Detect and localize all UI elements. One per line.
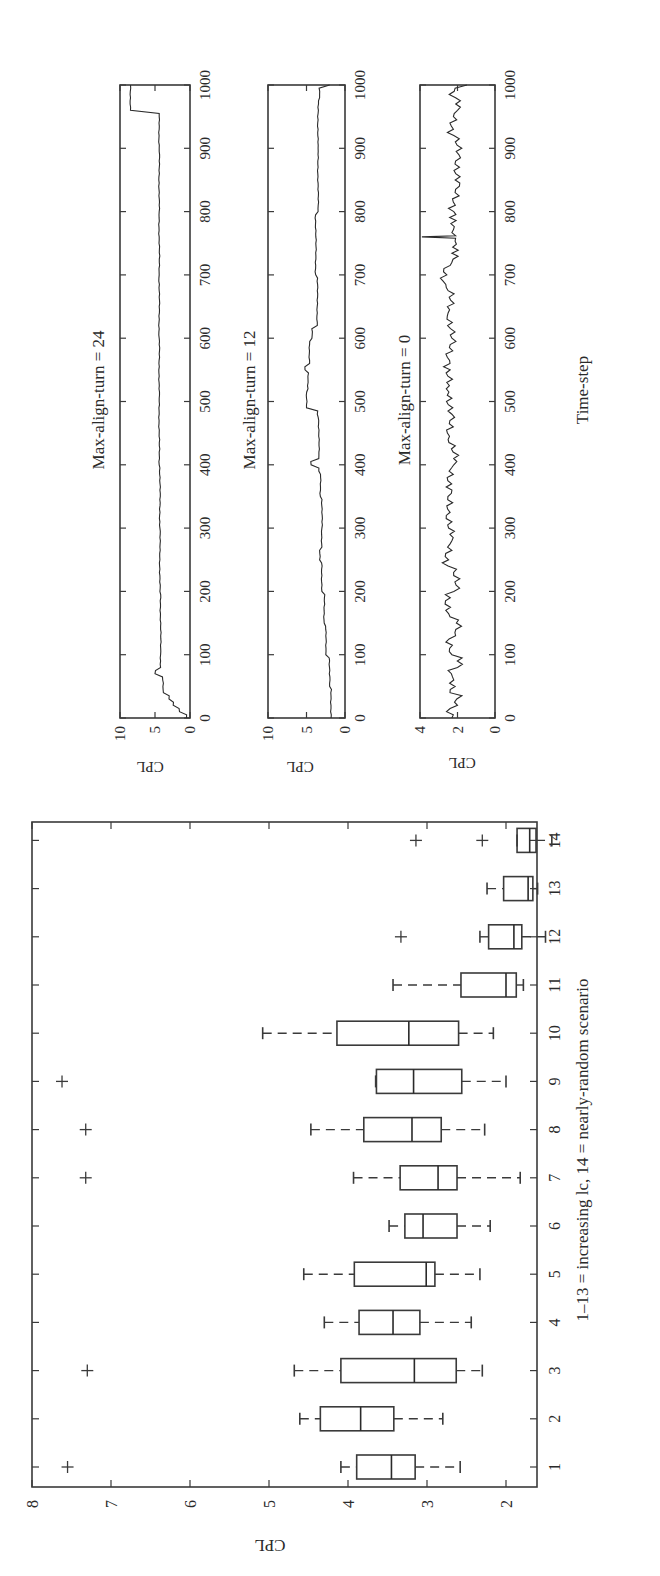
time-tick-label: 600 [502,327,518,350]
time-tick-label: 500 [352,390,368,413]
time-step-label: Time-step [573,356,592,424]
x-tick-label: 7 [546,1174,563,1182]
x-tick-label: 6 [546,1222,563,1230]
cpl-trace [130,85,187,718]
time-tick-label: 600 [352,327,368,350]
y-tick-label: 3 [419,1500,436,1508]
x-tick-label: 10 [546,1025,563,1041]
time-tick-label: 0 [352,714,368,722]
time-tick-label: 100 [197,643,213,666]
time-tick-label: 300 [352,517,368,540]
y-tick-label: 4 [340,1500,357,1508]
panel1-title: Max-align-turn = 24 [89,330,108,469]
time-series-panels: 0100200300400500600700800900100005100100… [112,70,518,741]
time-tick-label: 1000 [502,70,518,100]
time-tick-label: 300 [502,517,518,540]
panel-max-align-24: 010020030040050060070080090010000510 [112,70,213,741]
time-tick-label: 700 [197,264,213,287]
panel3-y-label: CPL [448,755,476,771]
cpl-tick-label: 10 [260,726,276,741]
box-12 [395,925,546,949]
time-tick-label: 200 [352,580,368,603]
time-tick-label: 500 [197,390,213,413]
time-tick-label: 200 [197,580,213,603]
time-tick-label: 1000 [352,70,368,100]
boxplot-x-ticks: 1234567891011121314 [32,832,563,1471]
time-tick-label: 800 [197,200,213,223]
box-1 [62,1455,461,1479]
cpl-tick-label: 2 [450,726,466,734]
x-tick-label: 12 [546,929,563,945]
x-tick-label: 1 [546,1463,563,1471]
time-tick-label: 0 [197,714,213,722]
time-tick-label: 100 [352,643,368,666]
cpl-tick-label: 10 [112,726,128,741]
cpl-tick-label: 0 [337,726,353,734]
time-tick-label: 200 [502,580,518,603]
time-tick-label: 400 [502,454,518,477]
figure: 2345678 1234567891011121314 CPL 1–13 = i… [0,0,660,1576]
box-6 [389,1214,490,1238]
panel3-title: Max-align-turn = 0 [395,335,414,465]
y-tick-label: 8 [24,1500,41,1508]
panel1-y-label: CPL [136,759,164,775]
cpl-trace [422,85,467,718]
x-tick-label: 13 [546,881,563,897]
x-tick-label: 5 [546,1270,563,1278]
boxplot-y-ticks: 2345678 [24,822,515,1508]
y-tick-label: 6 [182,1500,199,1508]
cpl-tick-label: 0 [487,726,503,734]
panel2-title: Max-align-turn = 12 [240,331,259,470]
box-3 [81,1359,482,1383]
time-tick-label: 0 [502,714,518,722]
time-tick-label: 1000 [197,70,213,100]
boxplot-x-label: 1–13 = increasing lc, 14 = nearly-random… [573,978,592,1321]
box-9 [56,1069,506,1093]
cpl-tick-label: 0 [182,726,198,734]
cpl-tick-label: 5 [299,726,315,734]
time-tick-label: 800 [502,200,518,223]
x-tick-label: 8 [546,1126,563,1134]
time-tick-label: 700 [502,264,518,287]
boxplot-y-label: CPL [254,1536,285,1555]
box-5 [304,1262,480,1286]
time-tick-label: 700 [352,264,368,287]
cpl-tick-label: 5 [147,726,163,734]
box-4 [324,1310,471,1334]
time-tick-label: 600 [197,327,213,350]
x-tick-label: 9 [546,1077,563,1085]
box-11 [393,973,523,997]
x-tick-label: 3 [546,1367,563,1375]
cpl-tick-label: 4 [412,726,428,734]
y-tick-label: 7 [103,1500,120,1508]
x-tick-label: 4 [546,1318,563,1326]
time-tick-label: 100 [502,643,518,666]
time-tick-label: 400 [352,454,368,477]
y-tick-label: 5 [261,1500,278,1508]
boxplot-panel: 2345678 1234567891011121314 CPL 1–13 = i… [24,822,592,1555]
time-tick-label: 900 [197,137,213,160]
time-tick-label: 400 [197,454,213,477]
box-10 [263,1021,494,1045]
time-tick-label: 900 [502,137,518,160]
y-tick-label: 2 [498,1500,515,1508]
time-tick-label: 300 [197,517,213,540]
boxplot-frame [32,822,537,1487]
box-2 [300,1407,443,1431]
panel2-y-label: CPL [286,759,314,775]
panel-max-align-12: 010020030040050060070080090010000510 [260,70,368,741]
boxplot-boxes [56,828,552,1479]
box-8 [80,1118,485,1142]
panel-max-align-0: 01002003004005006007008009001000024 [412,70,518,734]
panel-frame [120,85,190,718]
time-tick-label: 900 [352,137,368,160]
cpl-trace [305,85,332,718]
box-7 [80,1166,520,1190]
time-tick-label: 800 [352,200,368,223]
x-tick-label: 11 [546,977,563,992]
x-tick-label: 2 [546,1415,563,1423]
time-tick-label: 500 [502,390,518,413]
x-tick-label: 14 [546,832,563,848]
